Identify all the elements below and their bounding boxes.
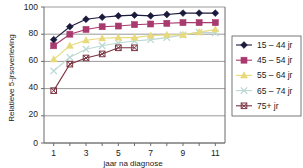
data-point-square [83, 26, 89, 32]
legend-item-label: 65 – 74 jr [257, 86, 293, 96]
data-point-square [212, 20, 218, 26]
data-point-diamond [131, 12, 138, 19]
data-point-diamond [115, 12, 122, 19]
data-point-square [67, 31, 73, 37]
y-tick-label: 0 [33, 138, 38, 148]
x-tick-labels: 1357911 [51, 148, 220, 158]
data-point-square [180, 20, 186, 26]
x-tick-label: 3 [84, 148, 89, 158]
data-point-square [99, 24, 105, 30]
legend-item-label: 15 – 44 jr [257, 40, 293, 50]
data-point-diamond [99, 14, 106, 21]
chart-legend: 15 – 44 jr45 – 54 jr55 – 64 jr65 – 74 jr… [232, 36, 301, 116]
legend-item-label: 75+ jr [257, 101, 279, 111]
series-line [54, 48, 135, 91]
data-point-square [241, 57, 247, 63]
data-point-square [148, 21, 154, 27]
x-tick-label: 11 [211, 148, 220, 158]
x-tick-label: 7 [148, 148, 153, 158]
data-point-diamond [212, 10, 219, 17]
chart-container: Relatieve 5-jrsoverleving 100 80 60 40 2… [0, 0, 303, 168]
x-axis-label: jaar na diagnose [102, 159, 163, 168]
data-point-diamond [147, 12, 154, 19]
data-point-square [196, 20, 202, 26]
data-point-square [115, 23, 121, 29]
legend-item-label: 45 – 54 jr [257, 55, 293, 65]
data-point-cross [67, 54, 73, 60]
y-tick-label: 80 [29, 28, 39, 38]
legend-item-label: 55 – 64 jr [257, 70, 293, 80]
y-tick-labels: 100 80 60 40 20 0 [24, 2, 38, 148]
y-axis-label: Relatieve 5-jrsoverleving [7, 34, 16, 122]
y-tick-label: 40 [29, 82, 39, 92]
series-4 [51, 45, 137, 93]
series-2 [50, 26, 218, 62]
data-point-square [164, 20, 170, 26]
x-tick-label: 9 [181, 148, 186, 158]
data-point-cross-square [67, 61, 73, 67]
data-point-cross [50, 68, 56, 74]
data-point-diamond [196, 10, 203, 17]
x-tick-label: 5 [116, 148, 121, 158]
y-tick-label: 100 [24, 2, 38, 12]
data-point-square [51, 43, 57, 49]
data-point-triangle [212, 26, 219, 32]
data-point-diamond [163, 11, 170, 18]
data-point-diamond [83, 16, 90, 23]
x-tick-label: 1 [51, 148, 56, 158]
survival-line-chart: Relatieve 5-jrsoverleving 100 80 60 40 2… [0, 0, 303, 168]
data-series-layer [50, 10, 218, 94]
y-tick-label: 20 [29, 109, 39, 119]
y-tick-label: 60 [29, 55, 39, 65]
data-point-square [132, 22, 138, 28]
data-point-diamond [180, 10, 187, 17]
